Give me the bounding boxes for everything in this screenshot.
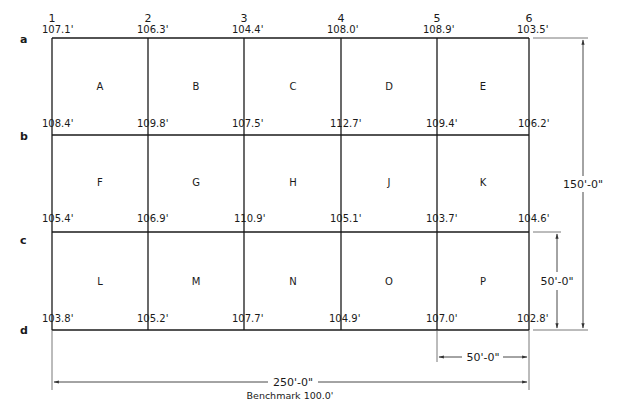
cell-label-M: M xyxy=(192,276,201,287)
row-letter-a: a xyxy=(20,33,27,46)
elevation-a3: 104.4' xyxy=(232,24,263,35)
elevations-row-d: 103.8' 105.2' 107.7' 104.9' 107.0' 102.8… xyxy=(42,313,548,324)
elevations-row-a: 107.1' 106.3' 104.4' 108.0' 108.9' 103.5… xyxy=(42,24,548,35)
elevation-b1: 108.4' xyxy=(42,118,73,129)
elevation-d1: 103.8' xyxy=(42,313,73,324)
row-letter-b: b xyxy=(20,130,28,143)
dimension-total-width: 250'-0" xyxy=(52,330,527,390)
cell-label-F: F xyxy=(97,177,103,188)
cell-label-C: C xyxy=(290,81,297,92)
elevation-d6: 102.8' xyxy=(517,313,548,324)
elevation-b6: 106.2' xyxy=(518,118,549,129)
elevation-a2: 106.3' xyxy=(137,24,168,35)
cell-label-N: N xyxy=(289,276,296,287)
elevations-row-c: 105.4' 106.9' 110.9' 105.1' 103.7' 104.6… xyxy=(42,213,549,224)
dimension-label-50-horizontal: 50'-0" xyxy=(466,351,499,364)
elevations-row-b: 108.4' 109.8' 107.5' 112.7' 109.4' 106.2… xyxy=(42,118,549,129)
elevation-a5: 108.9' xyxy=(423,24,454,35)
cell-label-D: D xyxy=(385,81,393,92)
elevation-c4: 105.1' xyxy=(330,213,361,224)
cell-label-A: A xyxy=(97,81,104,92)
elevation-c3: 110.9' xyxy=(234,213,265,224)
elevation-c5: 103.7' xyxy=(426,213,457,224)
elevation-b4: 112.7' xyxy=(330,118,361,129)
elevation-a4: 108.0' xyxy=(327,24,358,35)
cell-label-L: L xyxy=(97,276,103,287)
elevation-b5: 109.4' xyxy=(426,118,457,129)
cell-label-J: J xyxy=(387,177,391,188)
elevation-d2: 105.2' xyxy=(137,313,168,324)
cell-label-B: B xyxy=(193,81,200,92)
cell-labels: A B C D E F G H J K L M N O P xyxy=(97,81,487,287)
elevation-c1: 105.4' xyxy=(42,213,73,224)
grid-elevation-diagram: 1 2 3 4 5 6 a b c d 107.1' 106.3' 104.4'… xyxy=(0,0,617,414)
dimension-cell-width: 50'-0" xyxy=(437,330,529,390)
dimension-label-250: 250'-0" xyxy=(273,376,313,389)
cell-label-G: G xyxy=(192,177,200,188)
cell-label-P: P xyxy=(480,276,486,287)
elevation-b2: 109.8' xyxy=(137,118,168,129)
benchmark-label: Benchmark 100.0' xyxy=(247,390,334,401)
column-numbers: 1 2 3 4 5 6 xyxy=(49,12,533,25)
cell-label-O: O xyxy=(385,276,393,287)
elevation-c2: 106.9' xyxy=(137,213,168,224)
row-letter-c: c xyxy=(20,234,27,247)
cell-label-K: K xyxy=(480,177,487,188)
elevation-a6: 103.5' xyxy=(517,24,548,35)
row-letter-d: d xyxy=(20,324,28,337)
elevation-b3: 107.5' xyxy=(232,118,263,129)
dimension-label-150: 150'-0" xyxy=(563,178,603,191)
elevation-d3: 107.7' xyxy=(232,313,263,324)
cell-label-H: H xyxy=(289,177,297,188)
row-letters: a b c d xyxy=(20,33,28,337)
elevation-d5: 107.0' xyxy=(426,313,457,324)
elevation-a1: 107.1' xyxy=(42,24,73,35)
elevation-d4: 104.9' xyxy=(329,313,360,324)
cell-label-E: E xyxy=(480,81,486,92)
dimension-label-50-vertical: 50'-0" xyxy=(540,275,573,288)
elevation-c6: 104.6' xyxy=(518,213,549,224)
